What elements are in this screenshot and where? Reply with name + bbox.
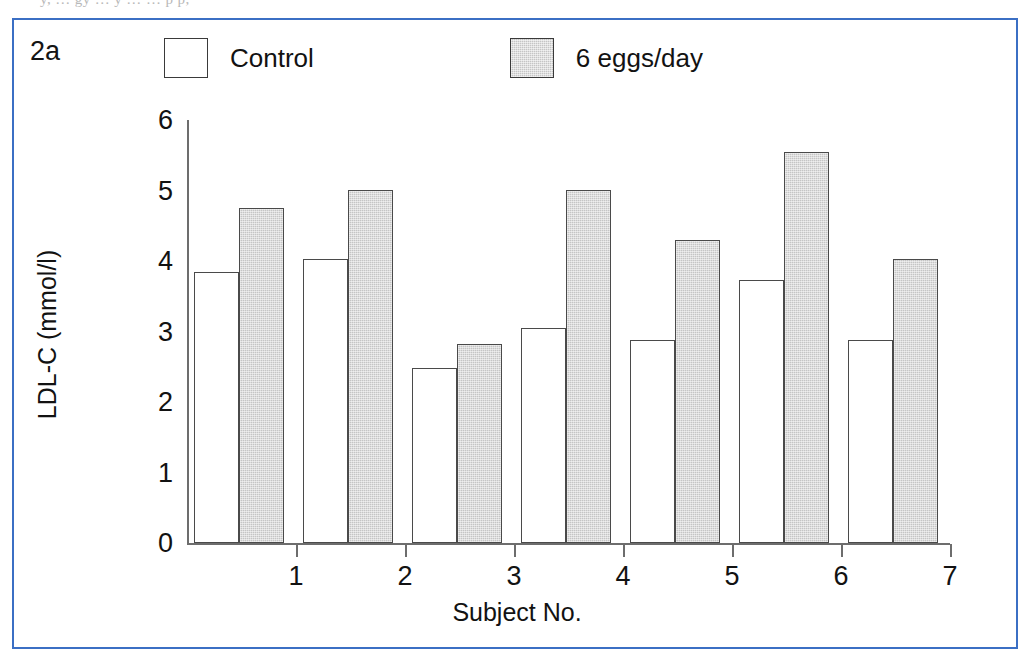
- y-tick-label: 5: [127, 175, 173, 206]
- x-tick-label: 6: [821, 561, 861, 592]
- x-tick-label: 5: [712, 561, 752, 592]
- x-tick-label: 3: [494, 561, 534, 592]
- x-tick-mark: [841, 544, 843, 557]
- bar-control: [303, 259, 348, 543]
- clipped-text: y, … gy … y … … p p,: [0, 0, 1032, 8]
- bar-control: [630, 340, 675, 543]
- y-tick-label: 3: [127, 316, 173, 347]
- y-tick-label: 4: [127, 246, 173, 277]
- y-tick-label: 6: [127, 105, 173, 136]
- x-tick-label: 7: [930, 561, 970, 592]
- y-axis-line: [187, 120, 189, 544]
- x-axis-title: Subject No.: [14, 598, 1020, 627]
- y-tick-label: 1: [127, 457, 173, 488]
- bar-eggs: [675, 240, 720, 543]
- y-axis-title: LDL-C (mmol/l): [33, 185, 62, 485]
- bar-control: [521, 328, 566, 543]
- bar-eggs: [893, 259, 938, 543]
- x-axis-line: [187, 543, 950, 545]
- x-tick-label: 1: [276, 561, 316, 592]
- plot-area: LDL-C (mmol/l) Subject No. 0123456 12345…: [14, 20, 1020, 651]
- bar-eggs: [348, 190, 393, 543]
- bar-eggs: [784, 152, 829, 543]
- bar-eggs: [566, 190, 611, 543]
- x-tick-label: 2: [385, 561, 425, 592]
- y-tick-label: 2: [127, 387, 173, 418]
- bar-eggs: [457, 344, 502, 543]
- clipped-text-above-figure: y, … gy … y … … p p,: [0, 0, 1032, 16]
- bar-control: [739, 280, 784, 543]
- x-tick-mark: [514, 544, 516, 557]
- x-tick-mark: [732, 544, 734, 557]
- x-tick-mark: [950, 544, 952, 557]
- x-tick-label: 4: [603, 561, 643, 592]
- figure-frame: 2a Control 6 eggs/day LDL-C (mmol/l) Sub…: [12, 18, 1018, 649]
- x-tick-mark: [405, 544, 407, 557]
- bar-eggs: [239, 208, 284, 543]
- x-tick-mark: [296, 544, 298, 557]
- y-tick-label: 0: [127, 528, 173, 559]
- bar-control: [412, 368, 457, 543]
- x-tick-mark: [623, 544, 625, 557]
- bar-control: [848, 340, 893, 543]
- bar-control: [194, 272, 239, 543]
